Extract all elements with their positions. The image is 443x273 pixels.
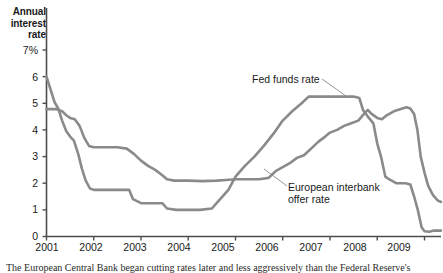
figure-caption: The European Central Bank began cutting … (6, 262, 443, 273)
annotation-euribor-line-2: offer rate (288, 193, 380, 205)
annotation-european-interbank-offer-rate: European interbank offer rate (288, 181, 380, 205)
annotation-euribor-line-1: European interbank (288, 181, 380, 193)
series-line-european-interbank-offer-rate (47, 107, 442, 202)
series-line-fed-funds-rate (47, 77, 442, 232)
annotation-fed-funds-rate: Fed funds rate (252, 73, 320, 85)
leader-line-fed-funds (322, 79, 346, 96)
